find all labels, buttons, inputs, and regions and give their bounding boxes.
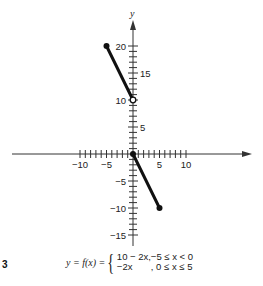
y-tick-label: 10 [115,95,126,106]
x-tick-label: −5 [101,159,112,170]
figure-number: 3 [2,259,8,270]
y-tick-label: −5 [115,176,126,187]
y-tick-label: −15 [110,230,126,241]
open-endpoint-icon [130,97,136,103]
x-axis-arrow-icon [242,151,252,157]
y-tick-label: 5 [140,122,145,133]
y-tick-label: 20 [115,41,126,52]
x-tick-label: 5 [157,159,162,170]
tick-labels: −10−55102015105−5−10−15 [72,41,191,241]
closed-endpoint-icon [157,205,163,211]
case-2-expression: −2x [117,262,151,272]
formula-lhs: y = f(x) = [66,257,105,268]
y-tick-label: 15 [140,68,151,79]
x-tick-label: −10 [72,159,88,170]
case-2-condition: , 0 ≤ x ≤ 5 [151,262,193,272]
function-graph: −10−55102015105−5−10−15 y [0,0,263,286]
formula-brace: { [108,252,115,272]
closed-endpoint-icon [130,151,136,157]
closed-endpoint-icon [104,43,110,49]
y-tick-label: −10 [110,203,126,214]
formula-case-2: −2x , 0 ≤ x ≤ 5 [117,262,193,272]
y-axis-label: y [129,8,135,19]
formula-cases: 10 − 2x, −5 ≤ x < 0 −2x , 0 ≤ x ≤ 5 [117,252,193,272]
y-axis-arrow-icon [130,20,136,30]
axes [12,20,252,246]
piecewise-formula: y = f(x) = { 10 − 2x, −5 ≤ x < 0 −2x , 0… [66,252,193,272]
x-tick-label: 10 [181,159,192,170]
